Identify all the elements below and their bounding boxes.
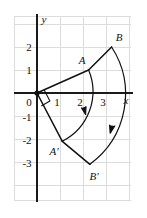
x-axis-label: x (123, 94, 129, 106)
tick-label-y-minus1: -1 (22, 111, 31, 123)
y-axis-label: y (41, 13, 47, 25)
tick-label-x-2: 2 (77, 96, 83, 108)
tick-label-y-2: 2 (26, 41, 32, 53)
point-label-A: A (78, 54, 86, 66)
point-label-B-prime: B' (89, 170, 99, 182)
tick-label-y-minus3: -3 (22, 157, 32, 169)
origin-point-marker (34, 90, 39, 95)
tick-label-y-minus2: -2 (22, 134, 31, 146)
rotation-diagram-svg: 0 1 2 3 2 1 -1 -2 -3 y x A B A' B' (0, 0, 147, 218)
tick-label-origin: 0 (26, 96, 32, 108)
point-label-B: B (116, 31, 123, 43)
tick-label-x-1: 1 (54, 96, 60, 108)
coordinate-plane-figure: 0 1 2 3 2 1 -1 -2 -3 y x A B A' B' (0, 0, 147, 218)
point-label-A-prime: A' (48, 145, 59, 157)
tick-label-y-1: 1 (26, 64, 32, 76)
tick-label-x-3: 3 (100, 96, 106, 108)
